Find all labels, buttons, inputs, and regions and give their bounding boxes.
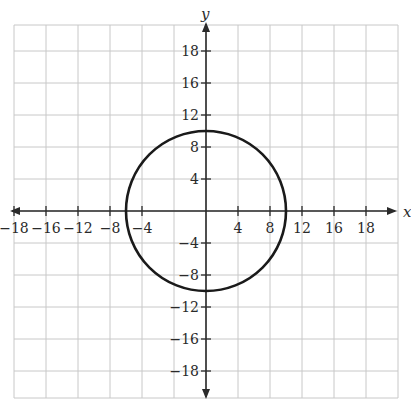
y-tick-label: −16 <box>169 331 199 347</box>
y-tick-label: 18 <box>181 43 199 59</box>
y-axis-label: y <box>200 5 210 23</box>
y-tick-label: 8 <box>190 139 199 155</box>
x-tick-label: 18 <box>357 220 375 236</box>
x-tick-label: 8 <box>266 220 275 236</box>
y-tick-label: −4 <box>178 235 199 251</box>
y-tick-label: 16 <box>181 75 199 91</box>
x-tick-label: −12 <box>63 220 93 236</box>
axes <box>12 24 395 397</box>
coordinate-plane: −18−16−12−8−44812161818161284−4−8−12−16−… <box>0 0 411 401</box>
x-tick-label: −18 <box>0 220 29 236</box>
x-tick-label: −16 <box>31 220 61 236</box>
y-tick-label: 12 <box>181 107 199 123</box>
circle-graph: −18−16−12−8−44812161818161284−4−8−12−16−… <box>0 0 411 401</box>
y-tick-label: 4 <box>190 171 199 187</box>
x-axis-label: x <box>403 203 411 221</box>
y-tick-label: −18 <box>169 363 199 379</box>
x-tick-label: 4 <box>234 220 243 236</box>
x-tick-label: −8 <box>100 220 121 236</box>
x-tick-label: 12 <box>293 220 311 236</box>
x-tick-label: −4 <box>132 220 153 236</box>
y-tick-label: −8 <box>178 267 199 283</box>
y-tick-label: −12 <box>169 299 199 315</box>
x-tick-label: 16 <box>325 220 343 236</box>
